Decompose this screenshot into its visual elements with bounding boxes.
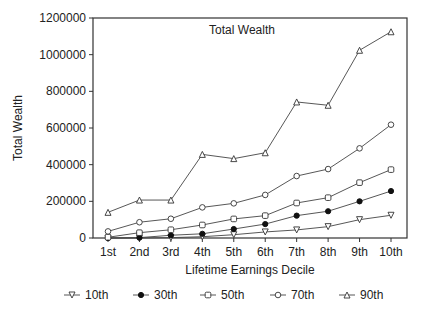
line-chart: 0200000400000600000800000100000012000001… [0,0,421,310]
square-marker [105,234,111,240]
legend-item-70th: 70th [270,288,314,302]
y-axis-label: Total Wealth [11,95,25,161]
square-marker [294,200,300,206]
x-axis-label: Lifetime Earnings Decile [185,263,315,277]
x-tick-label: 5th [225,245,242,259]
filled-circle-marker [168,233,173,238]
open-circle-marker [137,219,143,225]
filled-circle-marker [357,199,362,204]
x-tick-label: 8th [320,245,337,259]
series-line [108,125,391,232]
filled-circle-marker [294,213,299,218]
square-marker [205,292,211,298]
filled-circle-marker [138,292,143,297]
x-tick-label: 3rd [162,245,179,259]
square-marker [200,222,206,228]
y-tick-label: 600000 [46,121,86,135]
open-circle-marker [294,173,300,179]
y-tick-label: 400000 [46,158,86,172]
open-circle-marker [325,166,331,172]
x-tick-label: 4th [194,245,211,259]
y-tick-label: 0 [79,231,86,245]
series-line [108,191,391,238]
legend: 10th30th50th70th90th [64,288,383,302]
open-circle-marker [231,201,237,207]
legend-label: 70th [291,288,314,302]
series-line [108,32,391,213]
series-line [108,170,391,238]
x-tick-label: 6th [257,245,274,259]
square-marker [137,230,143,236]
square-marker [168,227,174,233]
open-circle-marker [262,192,268,198]
open-circle-marker [275,292,281,298]
x-tick-label: 2nd [129,245,149,259]
x-tick-label: 1st [100,245,117,259]
y-tick-label: 200000 [46,194,86,208]
triangle-up-marker [388,29,394,35]
x-tick-label: 10th [379,245,402,259]
y-tick-label: 800000 [46,84,86,98]
x-tick-label: 9th [351,245,368,259]
open-circle-marker [105,229,111,235]
triangle-up-marker [105,209,111,215]
filled-circle-marker [200,231,205,236]
series-30th [105,188,393,240]
x-tick-label: 7th [288,245,305,259]
filled-circle-marker [326,209,331,214]
open-circle-marker [200,205,206,211]
square-marker [325,195,331,201]
filled-circle-marker [388,188,393,193]
filled-circle-marker [263,221,268,226]
legend-label: 50th [221,288,244,302]
open-circle-marker [168,216,174,222]
legend-item-90th: 90th [339,288,383,302]
legend-item-50th: 50th [200,288,244,302]
square-marker [388,167,394,173]
legend-label: 10th [85,288,108,302]
legend-item-30th: 30th [133,288,177,302]
filled-circle-marker [231,226,236,231]
series-group [105,29,394,241]
square-marker [262,213,268,219]
triangle-up-marker [357,47,363,53]
legend-label: 90th [360,288,383,302]
series-50th [105,167,394,240]
y-tick-label: 1000000 [39,48,86,62]
y-tick-label: 1200000 [39,11,86,25]
square-marker [357,180,363,186]
chart-title: Total Wealth [209,23,275,37]
square-marker [231,216,237,222]
open-circle-marker [388,122,394,128]
legend-label: 30th [154,288,177,302]
legend-item-10th: 10th [64,288,108,302]
open-circle-marker [357,146,363,152]
